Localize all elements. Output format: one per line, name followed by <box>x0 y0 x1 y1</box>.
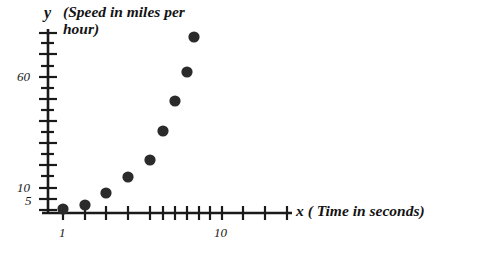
y-axis-variable-symbol: y <box>44 4 51 22</box>
x-tick-label-1: 1 <box>59 225 66 241</box>
x-tick-label-10: 10 <box>214 225 227 241</box>
y-tick-label-5: 5 <box>25 193 32 209</box>
y-tick-label-60: 60 <box>17 69 30 85</box>
chart-figure: y (Speed in miles per hour) x ( Time in … <box>0 0 477 256</box>
data-point-5 <box>144 154 155 165</box>
data-point-6 <box>157 125 168 136</box>
data-point-7 <box>169 95 180 106</box>
data-point-3 <box>100 187 111 198</box>
data-point-8 <box>181 66 192 77</box>
x-axis-title: x ( Time in seconds) <box>296 202 425 219</box>
data-point-1 <box>57 203 68 214</box>
y-axis-title: (Speed in miles per hour) <box>63 3 253 38</box>
axes-group <box>42 29 292 213</box>
data-points-group <box>57 31 199 214</box>
data-point-4 <box>122 171 133 182</box>
data-point-2 <box>79 199 90 210</box>
